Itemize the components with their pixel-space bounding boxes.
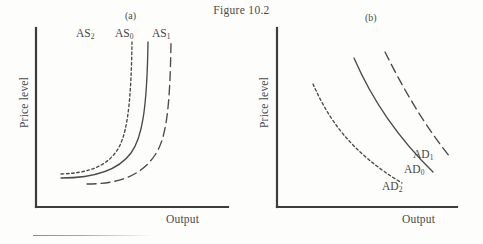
curve-label-ad1-subscript: 1: [430, 153, 434, 162]
curve-label-as2: AS2: [76, 27, 94, 41]
curve-label-as0-subscript: 0: [130, 32, 134, 41]
curve-ad2: [313, 84, 402, 183]
panel-b-plot: [250, 0, 483, 244]
curve-ad1: [385, 52, 450, 157]
curve-label-ad0-subscript: 0: [421, 168, 425, 177]
panel-b: (b) Price level Output AD1 AD0 AD2: [250, 0, 483, 244]
curve-label-as1-subscript: 1: [167, 32, 171, 41]
curve-label-ad1: AD1: [413, 148, 433, 162]
curve-label-as0: AS0: [115, 27, 133, 41]
curve-label-as0-text: AS: [115, 27, 130, 39]
curve-label-ad0-text: AD: [404, 163, 421, 175]
page-divider-rule: [33, 235, 153, 236]
curve-as2: [61, 42, 132, 174]
curve-label-as2-text: AS: [76, 27, 91, 39]
curve-label-ad2-text: AD: [382, 180, 399, 192]
curve-label-ad1-text: AD: [413, 148, 430, 160]
curve-label-ad2: AD2: [382, 180, 402, 194]
curve-label-as2-subscript: 2: [91, 32, 95, 41]
curve-label-as1: AS1: [152, 27, 170, 41]
figure-page: Figure 10.2 (a) Price level Output AS2 A…: [0, 0, 483, 244]
curve-as1: [87, 42, 171, 184]
curve-label-ad0: AD0: [404, 163, 424, 177]
curve-label-ad2-subscript: 2: [399, 185, 403, 194]
curve-label-as1-text: AS: [152, 27, 167, 39]
panel-a: (a) Price level Output AS2 AS0 AS1: [0, 0, 250, 244]
curve-as0: [61, 42, 148, 178]
